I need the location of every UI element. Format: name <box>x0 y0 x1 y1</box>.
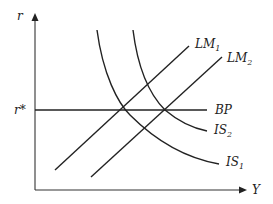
is2-label: IS2 <box>213 123 232 139</box>
is1-label: IS1 <box>225 155 244 171</box>
y-axis <box>32 13 39 190</box>
r-star-label: r* <box>14 103 26 117</box>
lm2-label: LM2 <box>226 51 252 67</box>
x-axis <box>35 187 247 194</box>
y-axis-arrow-icon <box>32 13 39 21</box>
y-axis-label: r <box>17 9 24 23</box>
lm2-line <box>91 57 222 177</box>
is-lm-bp-diagram: r Y r* BP LM1 LM2 IS1 IS2 <box>0 0 273 204</box>
bp-label: BP <box>214 103 233 117</box>
x-axis-arrow-icon <box>239 187 247 194</box>
lm1-line <box>55 46 189 170</box>
x-axis-label: Y <box>252 183 261 197</box>
lm1-label: LM1 <box>194 37 220 53</box>
